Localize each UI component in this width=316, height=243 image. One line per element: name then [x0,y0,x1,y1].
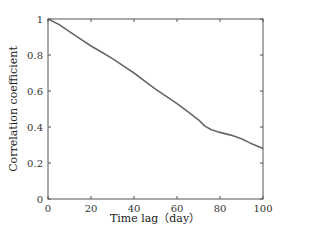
line-chart: 020406080100 00.20.40.60.81 Time lag（day… [0,0,316,243]
x-axis-ticks: 020406080100 [45,19,273,214]
x-tick-label: 0 [45,203,51,214]
correlation-line [48,19,263,149]
x-axis-title: Time lag（day） [110,212,200,225]
y-tick-label: 0.2 [27,158,43,169]
plot-area: 020406080100 00.20.40.60.81 [27,14,272,214]
y-axis-ticks: 00.20.40.60.81 [27,14,263,205]
y-axis-title: Correlation coefficient [7,46,20,172]
x-tick-label: 100 [253,203,272,214]
y-tick-label: 0 [37,194,43,205]
y-tick-label: 1 [37,14,43,25]
x-tick-label: 20 [85,203,98,214]
plot-frame [48,19,263,199]
y-tick-label: 0.6 [27,86,43,97]
y-tick-label: 0.8 [27,50,43,61]
x-tick-label: 80 [214,203,227,214]
y-tick-label: 0.4 [27,122,43,133]
